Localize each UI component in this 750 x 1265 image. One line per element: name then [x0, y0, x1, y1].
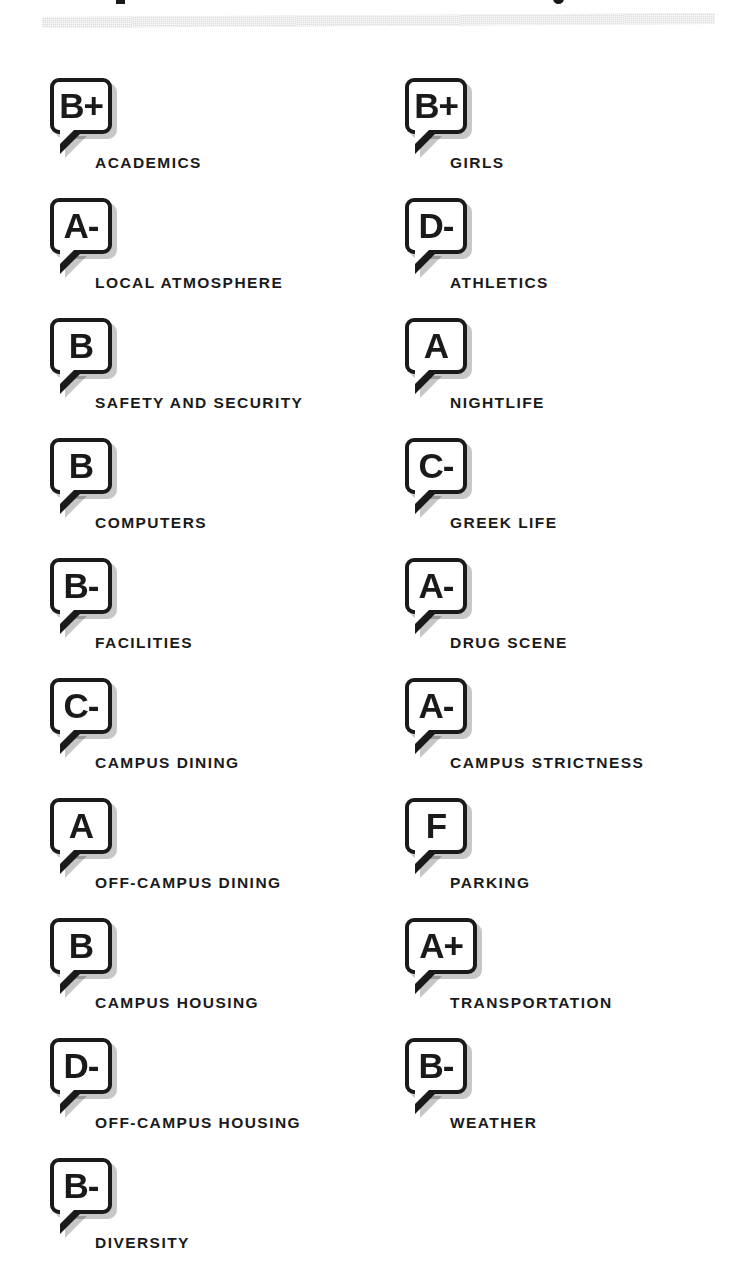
grade-bubble-icon: B- — [50, 1158, 112, 1214]
grade-item[interactable]: C-GREEK LIFE — [405, 438, 735, 558]
bubble-tail-icon — [60, 252, 82, 274]
grade-value: B- — [64, 1168, 99, 1203]
grade-item[interactable]: A+TRANSPORTATION — [405, 918, 735, 1038]
grade-bubble-icon: B+ — [50, 78, 112, 134]
grade-bubble-icon: D- — [50, 1038, 112, 1094]
grade-category-label: SAFETY AND SECURITY — [95, 394, 303, 412]
grade-value: B — [69, 928, 93, 963]
grade-category-label: COMPUTERS — [95, 514, 207, 532]
grade-bubble-icon: A- — [405, 678, 467, 734]
grade-item[interactable]: BCAMPUS HOUSING — [50, 918, 380, 1038]
report-card-grid: B+ACADEMICSA-LOCAL ATMOSPHEREBSAFETY AND… — [0, 0, 750, 1265]
grade-bubble-icon: B- — [405, 1038, 467, 1094]
bubble-tail-icon — [415, 852, 437, 874]
bubble-tail-icon — [415, 492, 437, 514]
bubble-tail-icon — [415, 732, 437, 754]
bubble-tail-icon — [60, 492, 82, 514]
grade-bubble-icon: A+ — [405, 918, 477, 974]
grade-item[interactable]: BCOMPUTERS — [50, 438, 380, 558]
bubble-tail-icon — [60, 972, 82, 994]
grade-bubble-icon: A — [50, 798, 112, 854]
grade-item[interactable]: B-WEATHER — [405, 1038, 735, 1158]
grade-value: C- — [64, 688, 99, 723]
grade-item[interactable]: AOFF-CAMPUS DINING — [50, 798, 380, 918]
bubble-tail-icon — [415, 252, 437, 274]
grade-value: D- — [64, 1048, 99, 1083]
grade-category-label: NIGHTLIFE — [450, 394, 545, 412]
bubble-tail-icon — [415, 612, 437, 634]
grade-item[interactable]: B+GIRLS — [405, 78, 735, 198]
grade-item[interactable]: BSAFETY AND SECURITY — [50, 318, 380, 438]
grade-value: A — [424, 328, 448, 363]
bubble-tail-icon — [60, 732, 82, 754]
bubble-tail-icon — [60, 1092, 82, 1114]
grade-value: D- — [419, 208, 454, 243]
grade-item[interactable]: ANIGHTLIFE — [405, 318, 735, 438]
bubble-tail-icon — [60, 1212, 82, 1234]
grade-item[interactable]: A-CAMPUS STRICTNESS — [405, 678, 735, 798]
grade-category-label: ACADEMICS — [95, 154, 202, 172]
grade-bubble-icon: A — [405, 318, 467, 374]
grade-value: B- — [64, 568, 99, 603]
bubble-tail-icon — [415, 372, 437, 394]
bubble-tail-icon — [415, 1092, 437, 1114]
grade-value: B+ — [59, 88, 103, 123]
grade-value: A — [69, 808, 93, 843]
grade-category-label: TRANSPORTATION — [450, 994, 613, 1012]
grade-item[interactable]: B-DIVERSITY — [50, 1158, 380, 1265]
grade-bubble-icon: B — [50, 438, 112, 494]
grade-category-label: LOCAL ATMOSPHERE — [95, 274, 283, 292]
grade-bubble-icon: B- — [50, 558, 112, 614]
grade-category-label: GIRLS — [450, 154, 505, 172]
grade-category-label: CAMPUS DINING — [95, 754, 240, 772]
grade-value: B- — [419, 1048, 454, 1083]
grade-value: B — [69, 448, 93, 483]
grade-item[interactable]: D-ATHLETICS — [405, 198, 735, 318]
grade-bubble-icon: F — [405, 798, 467, 854]
grade-category-label: DRUG SCENE — [450, 634, 568, 652]
grade-bubble-icon: C- — [405, 438, 467, 494]
grade-category-label: OFF-CAMPUS DINING — [95, 874, 282, 892]
grade-category-label: PARKING — [450, 874, 530, 892]
grade-category-label: FACILITIES — [95, 634, 193, 652]
grade-item[interactable]: A-LOCAL ATMOSPHERE — [50, 198, 380, 318]
grade-bubble-icon: A- — [50, 198, 112, 254]
grade-value: C- — [419, 448, 454, 483]
grade-bubble-icon: C- — [50, 678, 112, 734]
grade-category-label: DIVERSITY — [95, 1234, 190, 1252]
grade-bubble-icon: B+ — [405, 78, 467, 134]
grade-bubble-icon: A- — [405, 558, 467, 614]
bubble-tail-icon — [60, 372, 82, 394]
left-column: B+ACADEMICSA-LOCAL ATMOSPHEREBSAFETY AND… — [50, 78, 380, 1265]
bubble-tail-icon — [60, 132, 82, 154]
grade-category-label: CAMPUS HOUSING — [95, 994, 259, 1012]
grade-value: B+ — [414, 88, 458, 123]
bubble-tail-icon — [60, 612, 82, 634]
grade-item[interactable]: B-FACILITIES — [50, 558, 380, 678]
grade-bubble-icon: B — [50, 918, 112, 974]
grade-category-label: ATHLETICS — [450, 274, 549, 292]
bubble-tail-icon — [415, 132, 437, 154]
grade-bubble-icon: B — [50, 318, 112, 374]
grade-category-label: OFF-CAMPUS HOUSING — [95, 1114, 301, 1132]
grade-category-label: WEATHER — [450, 1114, 537, 1132]
grade-value: A- — [64, 208, 99, 243]
grade-category-label: GREEK LIFE — [450, 514, 558, 532]
grade-value: A- — [419, 688, 454, 723]
grade-value: A+ — [419, 928, 463, 963]
grade-value: A- — [419, 568, 454, 603]
grade-item[interactable]: FPARKING — [405, 798, 735, 918]
bubble-tail-icon — [415, 972, 437, 994]
grade-item[interactable]: B+ACADEMICS — [50, 78, 380, 198]
bubble-tail-icon — [60, 852, 82, 874]
grade-item[interactable]: A-DRUG SCENE — [405, 558, 735, 678]
right-column: B+GIRLSD-ATHLETICSANIGHTLIFEC-GREEK LIFE… — [405, 78, 735, 1158]
grade-category-label: CAMPUS STRICTNESS — [450, 754, 644, 772]
grade-value: F — [426, 808, 446, 843]
grade-item[interactable]: C-CAMPUS DINING — [50, 678, 380, 798]
grade-bubble-icon: D- — [405, 198, 467, 254]
grade-item[interactable]: D-OFF-CAMPUS HOUSING — [50, 1038, 380, 1158]
grade-value: B — [69, 328, 93, 363]
